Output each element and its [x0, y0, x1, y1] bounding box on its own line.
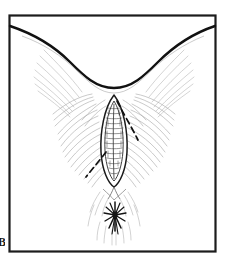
figure-label: B	[0, 236, 5, 252]
figure-container: o pt v	[0, 0, 228, 265]
starburst-center	[112, 212, 117, 219]
anatomical-illustration	[0, 0, 228, 265]
